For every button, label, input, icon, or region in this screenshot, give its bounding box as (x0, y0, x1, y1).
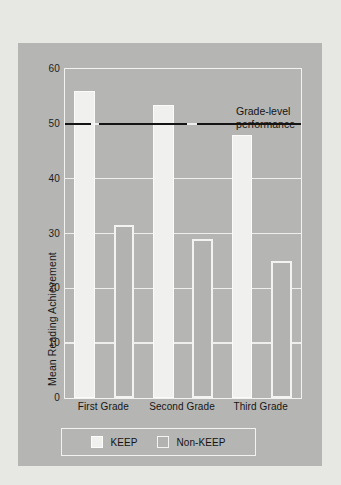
legend-item-nonkeep: Non-KEEP (157, 436, 225, 448)
y-tick-60: 60 (26, 63, 60, 74)
bar-nonkeep-first-grade (114, 225, 134, 398)
bar-nonkeep-third-grade (271, 261, 291, 398)
grade-level-reference-line-2 (99, 123, 187, 126)
plot-area: Grade-level performance (64, 68, 302, 399)
figure-page: 0102030405060 Mean Reading Achievement G… (0, 0, 341, 485)
gridline-40 (65, 178, 301, 180)
grade-level-annotation: Grade-level performance (236, 105, 295, 131)
y-tick-50: 50 (26, 117, 60, 128)
gridline-20 (65, 288, 301, 290)
y-axis-title-wrap: Mean Reading Achievement (34, 163, 54, 343)
y-axis-title: Mean Reading Achievement (46, 239, 58, 399)
gridline-10 (65, 342, 301, 344)
bar-keep-first-grade (74, 91, 94, 398)
bar-keep-third-grade (232, 135, 252, 398)
grade-level-reference-line-1 (65, 123, 91, 126)
chart-legend: KEEP Non-KEEP (61, 428, 256, 456)
x-axis-tick-labels: First GradeSecond GradeThird Grade (64, 401, 302, 419)
x-tick-second-grade: Second Grade (149, 401, 215, 412)
annotation-line-1: Grade-level (236, 105, 295, 118)
legend-label-nonkeep: Non-KEEP (176, 437, 225, 448)
gridline-30 (65, 233, 301, 235)
legend-label-keep: KEEP (110, 437, 137, 448)
legend-swatch-keep (91, 436, 103, 448)
x-tick-third-grade: Third Grade (233, 401, 287, 412)
grade-level-reference-line-3 (197, 123, 301, 126)
bar-keep-second-grade (153, 105, 173, 398)
chart-panel: 0102030405060 Mean Reading Achievement G… (18, 43, 322, 466)
legend-swatch-nonkeep (157, 436, 169, 448)
legend-item-keep: KEEP (91, 436, 137, 448)
bar-nonkeep-second-grade (192, 239, 212, 398)
x-tick-first-grade: First Grade (78, 401, 129, 412)
